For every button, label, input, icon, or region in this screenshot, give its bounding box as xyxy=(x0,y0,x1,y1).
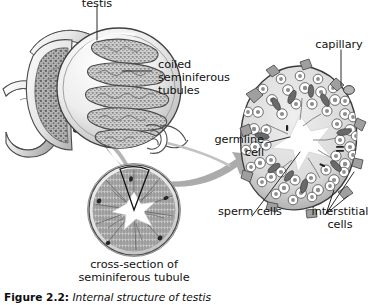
figure-caption-number: Figure 2.2: xyxy=(4,291,69,303)
label-sperm-cells: sperm cells xyxy=(218,205,302,218)
capillary-node xyxy=(344,86,355,95)
label-germline-cell: germline cell xyxy=(186,133,264,159)
label-testis: testis xyxy=(60,0,134,10)
label-interstitial-cells: interstitial cells xyxy=(307,205,373,231)
label-coiled-seminiferous-tubules: coiled seminiferous tubules xyxy=(158,58,254,98)
figure-caption: Figure 2.2: Internal structure of testis xyxy=(4,291,364,303)
figure-internal-structure-of-testis: testis coiled seminiferous tubules cross… xyxy=(0,0,373,305)
label-capillary: capillary xyxy=(305,38,373,51)
figure-caption-text: Internal structure of testis xyxy=(69,291,211,303)
label-cross-section-of-seminiferous-tubule: cross-section of seminiferous tubule xyxy=(72,258,196,284)
cross-section-disc xyxy=(88,164,181,257)
